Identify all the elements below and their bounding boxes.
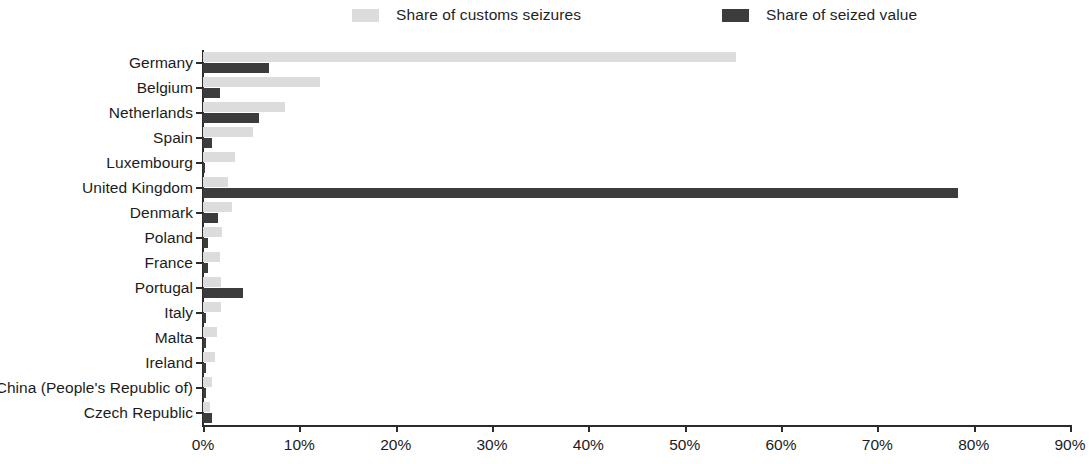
x-axis-tick [1070, 425, 1072, 432]
bar-row: Germany [203, 50, 1070, 75]
category-label: China (People's Republic of) [0, 375, 193, 400]
y-axis-tick [196, 237, 203, 239]
y-axis-tick [196, 362, 203, 364]
bar-customs-seizures [203, 302, 221, 312]
category-label: Belgium [0, 75, 193, 100]
legend-item-share-of-seized-value: Share of seized value [722, 4, 917, 26]
x-axis-tick-label: 0% [168, 436, 238, 454]
bar-customs-seizures [203, 202, 232, 212]
x-axis-tick [203, 425, 205, 432]
legend-label-customs-seizures: Share of customs seizures [396, 6, 581, 24]
y-axis-tick [196, 387, 203, 389]
y-axis-tick [196, 87, 203, 89]
x-axis-tick [492, 425, 494, 432]
bar-seized-value [203, 238, 208, 248]
x-axis-tick-label: 60% [746, 436, 816, 454]
legend-label-seized-value: Share of seized value [766, 6, 917, 24]
bar-row: Italy [203, 300, 1070, 325]
x-axis-tick-label: 70% [842, 436, 912, 454]
category-label: Malta [0, 325, 193, 350]
x-axis-tick-label: 40% [553, 436, 623, 454]
category-label: Italy [0, 300, 193, 325]
x-axis-line [202, 425, 1071, 427]
x-axis-tick [685, 425, 687, 432]
category-label: Luxembourg [0, 150, 193, 175]
bar-seized-value [203, 288, 243, 298]
bar-customs-seizures [203, 177, 228, 187]
bar-row: Denmark [203, 200, 1070, 225]
bar-customs-seizures [203, 127, 253, 137]
bar-customs-seizures [203, 227, 222, 237]
x-axis-tick-label: 30% [457, 436, 527, 454]
bar-customs-seizures [203, 52, 736, 62]
x-axis-tick-label: 50% [650, 436, 720, 454]
y-axis-tick [196, 287, 203, 289]
y-axis-tick [196, 212, 203, 214]
bar-row: Portugal [203, 275, 1070, 300]
bar-seized-value [203, 263, 208, 273]
y-axis-tick [196, 62, 203, 64]
y-axis-tick [196, 262, 203, 264]
category-label: Spain [0, 125, 193, 150]
x-axis-tick [877, 425, 879, 432]
y-axis-tick [196, 187, 203, 189]
bar-row: Luxembourg [203, 150, 1070, 175]
bar-seized-value [203, 213, 218, 223]
legend-item-share-of-customs-seizures: Share of customs seizures [352, 4, 581, 26]
plot-area: GermanyBelgiumNetherlandsSpainLuxembourg… [203, 50, 1070, 425]
bar-seized-value [203, 188, 958, 198]
bar-seized-value [203, 363, 206, 373]
bar-seized-value [203, 388, 206, 398]
bar-customs-seizures [203, 327, 217, 337]
bar-customs-seizures [203, 377, 212, 387]
chart-legend: Share of customs seizures Share of seize… [0, 0, 1092, 32]
x-axis-tick [974, 425, 976, 432]
bar-customs-seizures [203, 402, 210, 412]
x-axis-tick-label: 90% [1035, 436, 1092, 454]
y-axis-tick [196, 137, 203, 139]
bar-row: Czech Republic [203, 400, 1070, 425]
x-axis-tick-label: 20% [361, 436, 431, 454]
legend-swatch-customs-seizures [352, 9, 379, 22]
bar-customs-seizures [203, 352, 215, 362]
bar-row: Poland [203, 225, 1070, 250]
category-label: Poland [0, 225, 193, 250]
x-axis-tick [588, 425, 590, 432]
bar-chart: Share of customs seizures Share of seize… [0, 0, 1092, 464]
category-label: Czech Republic [0, 400, 193, 425]
bar-customs-seizures [203, 277, 221, 287]
bar-row: United Kingdom [203, 175, 1070, 200]
bar-seized-value [203, 413, 212, 423]
bar-row: Spain [203, 125, 1070, 150]
bar-row: Malta [203, 325, 1070, 350]
bar-seized-value [203, 113, 259, 123]
y-axis-tick [196, 162, 203, 164]
category-label: United Kingdom [0, 175, 193, 200]
bar-seized-value [203, 163, 205, 173]
y-axis-tick [196, 112, 203, 114]
bar-customs-seizures [203, 77, 320, 87]
bar-seized-value [203, 88, 220, 98]
category-label: Denmark [0, 200, 193, 225]
bar-seized-value [203, 138, 212, 148]
y-axis-tick [196, 412, 203, 414]
x-axis-tick [781, 425, 783, 432]
bar-seized-value [203, 63, 269, 73]
bar-customs-seizures [203, 252, 220, 262]
x-axis-tick [396, 425, 398, 432]
x-axis-tick-label: 10% [264, 436, 334, 454]
category-label: Portugal [0, 275, 193, 300]
y-axis-tick [196, 312, 203, 314]
bar-seized-value [203, 338, 206, 348]
category-label: Germany [0, 50, 193, 75]
bar-row: Ireland [203, 350, 1070, 375]
bar-row: Netherlands [203, 100, 1070, 125]
bar-customs-seizures [203, 152, 235, 162]
y-axis-tick [196, 337, 203, 339]
bar-row: China (People's Republic of) [203, 375, 1070, 400]
x-axis-tick-label: 80% [939, 436, 1009, 454]
bar-row: Belgium [203, 75, 1070, 100]
category-label: Netherlands [0, 100, 193, 125]
x-axis-tick [299, 425, 301, 432]
bar-customs-seizures [203, 102, 285, 112]
